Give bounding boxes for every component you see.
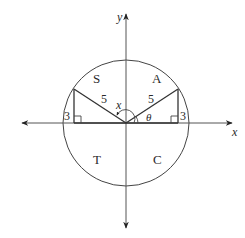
theta-angle-label: θ xyxy=(146,111,152,123)
quadrant-label-a: A xyxy=(152,71,162,86)
left-hypotenuse-label: 5 xyxy=(101,92,107,106)
quadrant-label-s: S xyxy=(93,71,100,86)
right-hypotenuse-label: 5 xyxy=(148,92,154,106)
x-axis-label: x xyxy=(231,125,238,139)
y-axis-label: y xyxy=(116,10,123,24)
trig-circle-diagram: y x S A T C 5 5 3 3 x θ xyxy=(0,0,245,238)
quadrant-label-c: C xyxy=(153,152,162,167)
x-angle-label: x xyxy=(115,98,122,112)
right-angle-mark xyxy=(74,116,81,123)
theta-arc xyxy=(136,117,138,124)
right-opposite-label: 3 xyxy=(180,109,186,123)
right-angle-mark xyxy=(171,116,178,123)
quadrant-label-t: T xyxy=(93,152,101,167)
left-opposite-label: 3 xyxy=(64,109,70,123)
